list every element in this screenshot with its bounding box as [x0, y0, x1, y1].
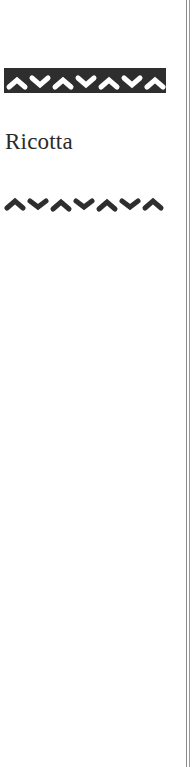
zigzag-band-ornament-icon [4, 68, 166, 93]
document-page: Ricotta [0, 0, 194, 767]
page-edge-rule [189, 0, 190, 767]
page-edge-rule [186, 0, 187, 767]
zigzag-wave-ornament-icon [4, 196, 166, 214]
page-title: Ricotta [5, 128, 73, 156]
